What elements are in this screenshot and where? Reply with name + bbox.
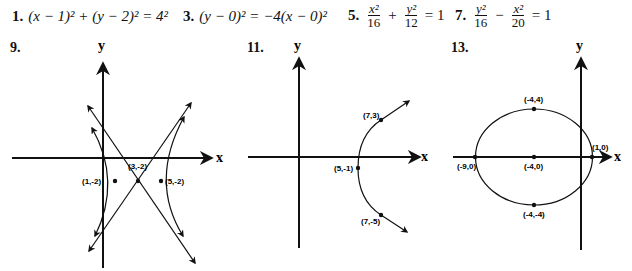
y-axis-label: y: [294, 38, 301, 53]
point-top: [532, 107, 536, 111]
point-label: (3,-2): [128, 162, 147, 171]
point-label: (7,-5): [361, 217, 380, 226]
point-center: [136, 179, 140, 183]
point-vertex: [356, 166, 360, 170]
point-center: [532, 155, 536, 159]
point-label: (5,-1): [334, 164, 353, 173]
x-axis-label: x: [216, 150, 223, 165]
graphs-canvas: y x (1,-2) (3,-2) (5,-2) y x (7,3) (5,-1…: [0, 0, 632, 271]
parabola-curve: [358, 101, 409, 232]
point-left: [473, 155, 477, 159]
graph-9-hyperbola: y x (1,-2) (3,-2) (5,-2): [12, 38, 223, 268]
point-label: (-4,4): [524, 95, 543, 104]
y-axis-label: y: [576, 38, 583, 53]
point-label: (-9,0): [457, 162, 476, 171]
point-label: (-4,0): [524, 162, 543, 171]
point-label: (7,3): [363, 111, 380, 120]
point-upper: [379, 118, 383, 122]
point-label: (-4,-4): [523, 210, 545, 219]
point-bottom: [532, 203, 536, 207]
point-label: (5,-2): [165, 177, 184, 186]
y-axis-label: y: [98, 38, 105, 53]
point-label: (1,-2): [82, 177, 101, 186]
x-axis-label: x: [421, 149, 428, 164]
point-right: [590, 155, 594, 159]
x-axis-label: x: [614, 149, 621, 164]
point-label: (1,0): [592, 143, 609, 152]
graph-11-parabola: y x (7,3) (5,-1) (7,-5): [248, 38, 428, 248]
graph-13-ellipse: y x (-4,4) (1,0) (-9,0) (-4,0) (-4,-4): [453, 38, 621, 250]
point-vertex-left: [113, 179, 117, 183]
point-vertex-right: [159, 179, 163, 183]
